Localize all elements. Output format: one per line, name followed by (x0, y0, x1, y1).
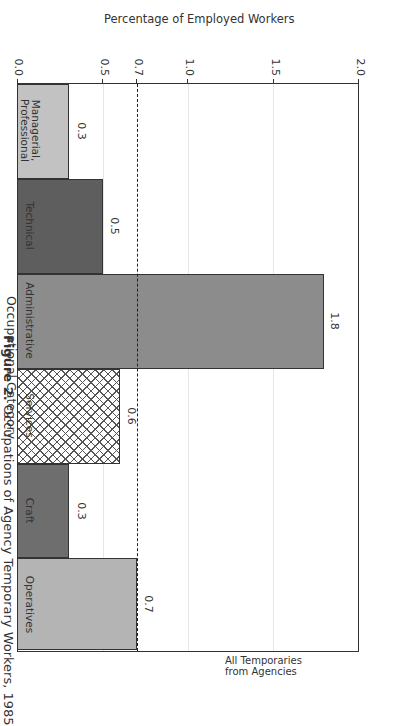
y-axis-title: Percentage of Employed Workers (104, 12, 294, 26)
x-category-line1: Managerial, (30, 83, 41, 178)
x-axis-title: Occupational Category (4, 83, 19, 652)
x-category-craft: Craft (24, 463, 35, 558)
reference-line-label: All Temporaries from Agencies (225, 655, 302, 677)
bar-administrative (18, 274, 324, 369)
y-tick-1.0: 1.0 (183, 46, 196, 76)
y-tick-2.0: 2.0 (354, 46, 367, 76)
y-tick-0.5: 0.5 (98, 46, 111, 76)
x-category-operatives: Operatives (24, 557, 35, 652)
value-label-operatives: 0.7 (142, 584, 155, 624)
x-category-line2: Professional (19, 83, 30, 178)
x-category-technical: Technical (24, 178, 35, 273)
value-label-craft: 0.3 (75, 491, 88, 531)
y-tick-0.7: 0.7 (132, 46, 145, 76)
reference-label-line1: All Temporaries (225, 655, 302, 666)
value-label-technical: 0.5 (108, 206, 121, 246)
x-category-administrative: Administrative (24, 273, 35, 368)
value-label-managerial: 0.3 (75, 111, 88, 151)
value-label-administrative: 1.8 (328, 301, 341, 341)
x-category-services: Services (24, 368, 35, 463)
y-tick-1.5: 1.5 (269, 46, 282, 76)
y-tick-0.0: 0.0 (12, 46, 25, 76)
plot-area: 0.3 0.5 1.8 0.6 0.3 0.7 (17, 83, 359, 652)
reference-label-line2: from Agencies (225, 666, 302, 677)
x-category-managerial: Managerial, Professional (19, 83, 41, 178)
reference-line-all-temporaries (137, 84, 138, 651)
